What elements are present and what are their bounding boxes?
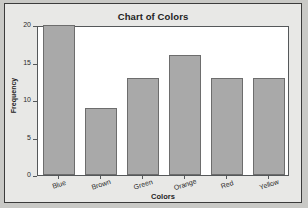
x-tick-mark xyxy=(184,176,185,179)
bar-slot xyxy=(206,27,248,175)
y-axis-title: Frequency xyxy=(10,61,17,131)
y-tick-label: 5 xyxy=(27,134,31,142)
bar-orange[interactable] xyxy=(169,55,201,175)
bar-yellow[interactable] xyxy=(253,78,285,176)
x-tick-mark xyxy=(142,176,143,179)
x-axis-title: Colors xyxy=(37,192,289,201)
y-axis: Frequency 05101520 xyxy=(5,26,37,176)
x-tick-mark xyxy=(100,176,101,179)
bar-slot xyxy=(122,27,164,175)
x-tick-mark xyxy=(58,176,59,179)
bar-red[interactable] xyxy=(211,78,243,176)
bar-brown[interactable] xyxy=(85,108,117,176)
y-tick-label: 20 xyxy=(23,21,31,29)
bar-slot xyxy=(80,27,122,175)
bar-slot xyxy=(248,27,290,175)
bar-slot xyxy=(38,27,80,175)
bar-blue[interactable] xyxy=(43,25,75,175)
chart-title: Chart of Colors xyxy=(5,11,301,22)
plot-area xyxy=(37,26,289,176)
bars-container xyxy=(38,27,288,175)
y-tick-label: 0 xyxy=(27,171,31,179)
x-tick-mark xyxy=(226,176,227,179)
chart-figure: Chart of Colors Frequency 05101520 BlueB… xyxy=(4,3,302,203)
bar-slot xyxy=(164,27,206,175)
y-tick-label: 15 xyxy=(23,59,31,67)
x-tick-mark xyxy=(268,176,269,179)
bar-green[interactable] xyxy=(127,78,159,176)
y-tick-label: 10 xyxy=(23,96,31,104)
